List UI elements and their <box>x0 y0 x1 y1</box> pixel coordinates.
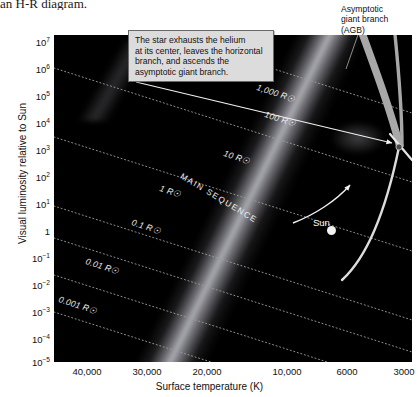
agb-annotation-label: Asymptotic giant branch (AGB) <box>341 4 417 35</box>
isoradius-lines <box>54 35 412 362</box>
plot-canvas: 1,000 R☉ 100 R☉ 10 R☉ 1 R☉ 0.1 R☉ 0.01 R… <box>54 35 412 362</box>
callout-line-2: at its center, leaves the horizontal <box>135 46 268 57</box>
y-tick-1e-4: 10−4 <box>6 334 50 345</box>
y-tick-1e5: 105 <box>6 91 50 102</box>
y-tick-1: 1 <box>6 226 50 237</box>
x-tick-6000: 6000 <box>336 366 357 377</box>
plot-overlay <box>54 35 412 362</box>
y-tick-1e4: 104 <box>6 118 50 129</box>
agb-line-2: giant branch <box>341 14 417 24</box>
y-tick-1e6: 106 <box>6 64 50 75</box>
y-tick-1e3: 103 <box>6 145 50 156</box>
y-tick-1e7: 107 <box>6 37 50 48</box>
agb-band <box>346 35 402 147</box>
x-tick-3000: 3000 <box>393 366 414 377</box>
y-tick-1e-5: 10−5 <box>6 357 50 368</box>
agb-leader-line <box>346 35 360 69</box>
isoradius-line-0.1-a <box>54 238 412 352</box>
sun-marker <box>327 226 336 235</box>
horizontal-branch-junction-dot <box>396 144 402 150</box>
x-axis-title: Surface temperature (K) <box>0 381 419 392</box>
callout-line-1: The star exhausts the helium <box>135 35 268 46</box>
y-tick-1e-1: 10−1 <box>6 253 50 264</box>
isoradius-line-100 <box>54 68 412 182</box>
red-giant-branch-track <box>342 147 399 280</box>
x-tick-30000: 30,000 <box>132 366 161 377</box>
agb-line-3: (AGB) <box>341 25 417 35</box>
isoradius-line-0.01 <box>54 312 412 362</box>
plot-area: 1,000 R☉ 100 R☉ 10 R☉ 1 R☉ 0.1 R☉ 0.01 R… <box>54 35 412 362</box>
callout-line-3: branch, and ascends the <box>135 56 268 67</box>
y-tick-1e2: 102 <box>6 172 50 183</box>
y-axis-title: Visual luminosity relative to Sun <box>17 74 28 274</box>
y-tick-1e-2: 10−2 <box>6 280 50 291</box>
y-tick-1e-3: 10−3 <box>6 307 50 318</box>
isoradius-line-0.1 <box>54 275 412 362</box>
x-tick-20000: 20,000 <box>192 366 221 377</box>
x-tick-10000: 10,000 <box>272 366 301 377</box>
y-tick-1e1: 101 <box>6 199 50 210</box>
callout-box: The star exhausts the helium at its cent… <box>128 30 274 82</box>
hr-diagram-figure: an H-R diagram. <box>0 0 419 397</box>
agb-line-1: Asymptotic <box>341 4 417 14</box>
x-tick-40000: 40,000 <box>72 366 101 377</box>
callout-line-4: asymptotic giant branch. <box>135 67 268 78</box>
